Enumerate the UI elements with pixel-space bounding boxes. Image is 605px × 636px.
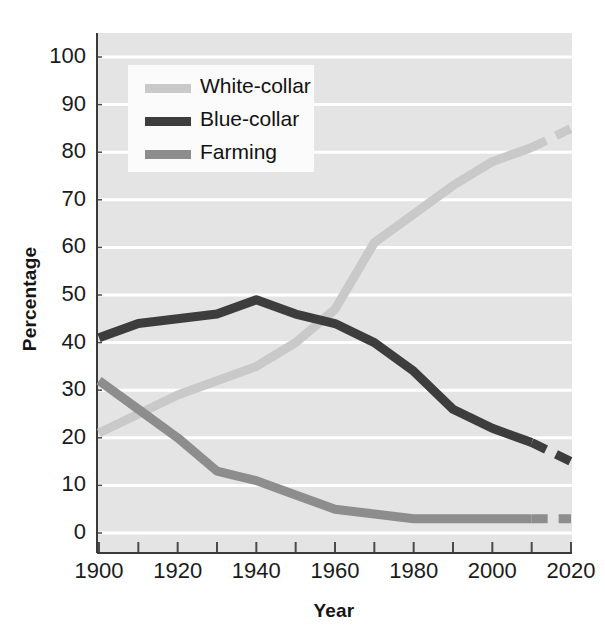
x-tick-label: 1980 bbox=[369, 560, 459, 582]
x-tick-label: 1960 bbox=[290, 560, 380, 582]
y-tick-label: 90 bbox=[6, 93, 86, 115]
x-tick-label: 1900 bbox=[54, 560, 144, 582]
y-axis-title: Percentage bbox=[19, 229, 41, 369]
legend-label: Farming bbox=[200, 140, 277, 164]
legend-item: White-collar bbox=[128, 73, 314, 105]
y-tick-label: 70 bbox=[6, 188, 86, 210]
y-tick-label: 10 bbox=[6, 473, 86, 495]
legend-swatch-icon bbox=[145, 117, 191, 126]
y-tick-label: 80 bbox=[6, 140, 86, 162]
y-tick-label: 40 bbox=[6, 331, 86, 353]
chart-figure: 0102030405060708090100 19001920194019601… bbox=[0, 0, 605, 636]
y-tick-label: 100 bbox=[6, 45, 86, 67]
y-tick-label: 30 bbox=[6, 378, 86, 400]
x-tick-label: 1940 bbox=[211, 560, 301, 582]
x-tick-label: 2020 bbox=[526, 560, 605, 582]
legend-item: Blue-collar bbox=[128, 106, 314, 138]
x-tick-label: 2000 bbox=[447, 560, 537, 582]
y-tick-label: 0 bbox=[6, 521, 86, 543]
legend-item: Farming bbox=[128, 139, 314, 171]
x-axis-title: Year bbox=[96, 600, 572, 622]
legend-label: White-collar bbox=[200, 74, 311, 98]
legend-swatch-icon bbox=[145, 84, 191, 93]
y-tick-label: 50 bbox=[6, 283, 86, 305]
chart-legend: White-collarBlue-collarFarming bbox=[128, 65, 314, 172]
y-tick-label: 20 bbox=[6, 426, 86, 448]
legend-swatch-icon bbox=[145, 150, 191, 159]
y-tick-label: 60 bbox=[6, 235, 86, 257]
legend-label: Blue-collar bbox=[200, 107, 299, 131]
x-tick-label: 1920 bbox=[133, 560, 223, 582]
